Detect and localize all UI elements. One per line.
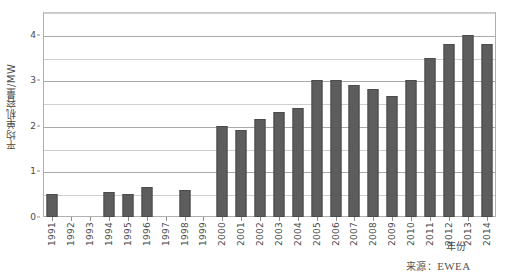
x-tick-mark xyxy=(71,217,72,221)
chart-screenshot: 平均单机容量/MW 01234 199119921993199419951996… xyxy=(0,0,514,279)
y-tick-mark xyxy=(37,34,40,35)
x-tick-mark xyxy=(128,217,129,221)
x-tick-label: 1997 xyxy=(161,222,171,246)
gridline-minor xyxy=(44,13,495,14)
x-tick-mark xyxy=(392,217,393,221)
x-tick-label: 2005 xyxy=(312,222,322,246)
gridline-minor xyxy=(44,104,495,105)
source-organization: EWEA xyxy=(437,260,470,272)
source-label: 来源： xyxy=(406,261,437,272)
x-tick-mark xyxy=(147,217,148,221)
y-tick-label: 3 xyxy=(30,75,36,85)
x-tick-mark xyxy=(203,217,204,221)
x-tick-label: 1999 xyxy=(198,222,208,246)
x-tick-label: 2007 xyxy=(349,222,359,246)
x-axis-title: 年份 xyxy=(446,238,466,253)
x-tick-label: 1993 xyxy=(85,222,95,246)
y-tick-mark xyxy=(37,217,40,218)
x-tick-mark xyxy=(166,217,167,221)
y-axis-ticks: 01234 xyxy=(20,12,40,217)
gridlines xyxy=(44,13,495,216)
gridline-major xyxy=(44,172,495,173)
x-tick-mark xyxy=(354,217,355,221)
x-tick-label: 2009 xyxy=(387,222,397,246)
x-tick-label: 1992 xyxy=(66,222,76,246)
x-tick-label: 2000 xyxy=(217,222,227,246)
y-tick-mark xyxy=(37,171,40,172)
x-tick-mark xyxy=(185,217,186,221)
x-tick-mark xyxy=(279,217,280,221)
x-tick-mark xyxy=(241,217,242,221)
source-note: 来源：EWEA xyxy=(406,258,471,273)
x-tick-label: 2014 xyxy=(482,222,492,246)
x-tick-mark xyxy=(411,217,412,221)
x-tick-label: 1991 xyxy=(47,222,57,246)
gridline-major xyxy=(44,81,495,82)
x-tick-label: 1998 xyxy=(180,222,190,246)
gridline-minor xyxy=(44,59,495,60)
x-tick-label: 2004 xyxy=(293,222,303,246)
x-tick-label: 2011 xyxy=(425,222,435,246)
x-tick-label: 1996 xyxy=(142,222,152,246)
x-tick-mark xyxy=(430,217,431,221)
x-tick-mark xyxy=(260,217,261,221)
y-tick-mark xyxy=(37,80,40,81)
gridline-minor xyxy=(44,150,495,151)
x-tick-label: 2006 xyxy=(331,222,341,246)
x-axis-labels: 1991199219931994199519961997199819992000… xyxy=(43,222,496,252)
gridline-major xyxy=(44,127,495,128)
x-tick-mark xyxy=(468,217,469,221)
y-tick-label: 2 xyxy=(30,121,36,131)
x-tick-label: 2010 xyxy=(406,222,416,246)
x-tick-mark xyxy=(109,217,110,221)
x-tick-mark xyxy=(317,217,318,221)
x-tick-mark xyxy=(52,217,53,221)
plot-area xyxy=(43,12,496,217)
x-tick-label: 2008 xyxy=(368,222,378,246)
gridline-major xyxy=(44,36,495,37)
x-tick-label: 2001 xyxy=(236,222,246,246)
y-tick-label: 4 xyxy=(30,30,36,40)
x-tick-mark xyxy=(487,217,488,221)
x-tick-mark xyxy=(373,217,374,221)
x-tick-label: 1994 xyxy=(104,222,114,246)
y-tick-label: 1 xyxy=(30,166,36,176)
x-tick-label: 2003 xyxy=(274,222,284,246)
x-tick-mark xyxy=(336,217,337,221)
x-tick-mark xyxy=(298,217,299,221)
x-tick-mark xyxy=(90,217,91,221)
x-tick-mark xyxy=(222,217,223,221)
x-tick-label: 1995 xyxy=(123,222,133,246)
gridline-minor xyxy=(44,195,495,196)
x-tick-mark xyxy=(449,217,450,221)
x-tick-label: 2002 xyxy=(255,222,265,246)
y-tick-label: 0 xyxy=(30,212,36,222)
y-tick-mark xyxy=(37,125,40,126)
